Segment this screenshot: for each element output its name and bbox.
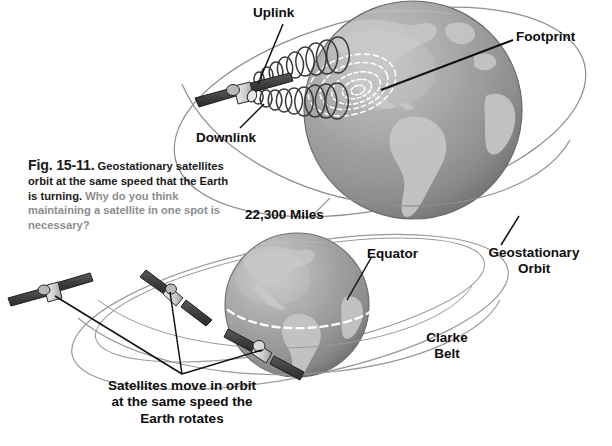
figure-number: Fig. 15-11. <box>28 157 94 173</box>
label-footprint: Footprint <box>516 30 575 45</box>
label-equator: Equator <box>367 247 418 262</box>
label-bottom-note: Satellites move in orbit at the same spe… <box>60 378 304 427</box>
earth-globe-bottom <box>225 233 369 384</box>
label-downlink: Downlink <box>196 131 256 146</box>
earth-globe-top <box>304 1 522 219</box>
label-geostationary-orbit-line1: Geostationary <box>478 245 590 261</box>
label-clarke-belt-line2: Belt <box>413 346 481 362</box>
figure-geostationary-satellites: Uplink Footprint Downlink 22,300 Miles E… <box>0 0 612 446</box>
label-geostationary-orbit-line2: Orbit <box>478 261 590 277</box>
label-bottom-note-line1: Satellites move in orbit <box>60 378 304 394</box>
label-clarke-belt-line1: Clarke <box>413 330 481 346</box>
figure-caption: Fig. 15-11. Geostationary satellites orb… <box>28 156 238 232</box>
satellite-bottom-mid <box>140 270 212 326</box>
label-clarke-belt: Clarke Belt <box>413 330 481 362</box>
label-geostationary-orbit: Geostationary Orbit <box>478 245 590 277</box>
label-distance: 22,300 Miles <box>245 208 324 223</box>
label-uplink: Uplink <box>253 6 294 21</box>
satellite-bottom-left <box>8 273 93 306</box>
label-bottom-note-line2: at the same speed the <box>60 394 304 410</box>
label-bottom-note-line3: Earth rotates <box>60 411 304 427</box>
satellite-top <box>195 73 293 107</box>
